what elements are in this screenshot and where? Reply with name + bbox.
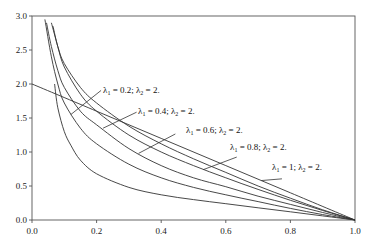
curves (32, 19, 355, 220)
y-axis: 0.00.51.01.52.02.53.0 (16, 11, 32, 225)
curve-3 (51, 23, 355, 220)
curve-2 (53, 26, 355, 220)
curve-label-0.6: λ1 = 0.6; λ2 = 2. (186, 125, 243, 136)
curve-6 (55, 84, 355, 220)
curve-label-0.4: λ1 = 0.4; λ2 = 2. (138, 106, 195, 117)
x-axis: 0.00.20.40.60.81.0 (26, 220, 361, 236)
y-tick-label: 1.0 (16, 147, 28, 157)
curve-5 (45, 19, 355, 220)
curve-label-1: λ1 = 1; λ2 = 2. (272, 162, 322, 173)
y-tick-label: 2.5 (16, 45, 28, 55)
plot-frame (32, 16, 355, 220)
y-tick-label: 1.5 (16, 113, 28, 123)
curve-label-0.8: λ1 = 0.8; λ2 = 2. (230, 142, 287, 153)
x-tick-label: 0.4 (156, 226, 168, 236)
curve-label-0.2: λ1 = 0.2; λ2 = 2. (103, 85, 160, 96)
x-tick-label: 0.2 (91, 226, 102, 236)
x-tick-label: 1.0 (349, 226, 361, 236)
x-tick-label: 0.8 (285, 226, 297, 236)
y-tick-label: 2.0 (16, 79, 28, 89)
chart: 0.00.51.01.52.02.53.0 0.00.20.40.60.81.0… (0, 0, 371, 247)
leader-line (261, 179, 282, 181)
x-tick-label: 0.0 (26, 226, 38, 236)
x-tick-label: 0.6 (220, 226, 232, 236)
y-tick-label: 3.0 (16, 11, 28, 21)
y-tick-label: 0.0 (16, 215, 28, 225)
leader-lines (71, 90, 282, 180)
y-tick-label: 0.5 (16, 181, 28, 191)
curve-4 (47, 23, 356, 220)
